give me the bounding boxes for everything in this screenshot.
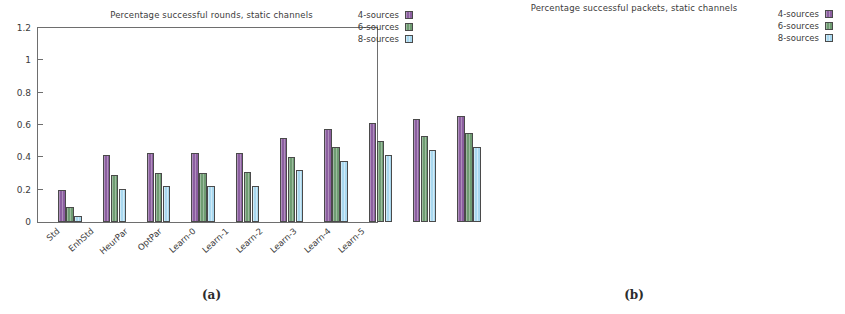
- legend-swatch-8-sources: [825, 34, 833, 42]
- x-axis-label: OptPar: [135, 226, 163, 253]
- x-axis-label: Learn-0: [167, 226, 198, 255]
- y-axis-tick-label: 0.4: [17, 152, 38, 162]
- x-axis-label: Learn-1: [200, 226, 231, 255]
- legend-swatch-6-sources: [405, 23, 413, 31]
- x-axis-label: Learn-5: [336, 226, 367, 255]
- legend-swatch-6-sources: [825, 22, 833, 30]
- subcaption-b: (b): [423, 288, 845, 302]
- legend-label-4-sources: 4-sources: [358, 10, 399, 20]
- legend-label-4-sources: 4-sources: [778, 9, 819, 19]
- legend-b: 4-sources 6-sources 8-sources: [778, 8, 833, 43]
- legend-item-6-sources: 6-sources: [778, 20, 833, 31]
- legend-item-4-sources: 4-sources: [778, 8, 833, 19]
- bar-8-sources-Learn-3: [385, 155, 393, 222]
- legend-swatch-4-sources: [405, 11, 413, 19]
- x-axis-label: Learn-3: [268, 226, 299, 255]
- x-axis-label: Learn-4: [302, 226, 333, 255]
- legend-a: 4-sources 6-sources 8-sources: [358, 9, 413, 44]
- x-axis-label: EnhStd: [66, 226, 95, 254]
- y-axis-tick-label: 0.8: [17, 88, 38, 98]
- legend-item-4-sources: 4-sources: [358, 9, 413, 20]
- y-axis-tick-label: 1: [25, 55, 38, 65]
- legend-item-8-sources: 8-sources: [778, 32, 833, 43]
- legend-item-8-sources: 8-sources: [358, 33, 413, 44]
- panel-a: Percentage successful rounds, static cha…: [0, 0, 423, 314]
- legend-label-6-sources: 6-sources: [778, 21, 819, 31]
- plot-area-a: 00.20.40.60.811.2 StdEnhStdHeurParOptPar…: [37, 27, 378, 223]
- legend-swatch-8-sources: [405, 35, 413, 43]
- x-axis-a: StdEnhStdHeurParOptParLearn-0Learn-1Lear…: [38, 28, 377, 222]
- legend-label-8-sources: 8-sources: [778, 33, 819, 43]
- x-axis-label: HeurPar: [98, 226, 130, 256]
- figure-two-bar-charts: Percentage successful rounds, static cha…: [0, 0, 845, 314]
- y-axis-tick-label: 0.6: [17, 120, 38, 130]
- legend-label-6-sources: 6-sources: [358, 22, 399, 32]
- panel-b: Percentage successful packets, static ch…: [423, 0, 845, 314]
- bar-4-sources-Learn-4: [413, 119, 421, 222]
- y-axis-tick-label: 1.2: [17, 23, 38, 33]
- x-axis-label: Learn-2: [234, 226, 265, 255]
- legend-item-6-sources: 6-sources: [358, 21, 413, 32]
- y-axis-tick-label: 0.2: [17, 185, 38, 195]
- bar-6-sources-Learn-3: [377, 141, 385, 222]
- legend-swatch-4-sources: [825, 10, 833, 18]
- x-axis-label: Std: [44, 226, 61, 243]
- y-axis-tick-label: 0: [25, 217, 38, 227]
- legend-label-8-sources: 8-sources: [358, 34, 399, 44]
- subcaption-a: (a): [0, 288, 423, 302]
